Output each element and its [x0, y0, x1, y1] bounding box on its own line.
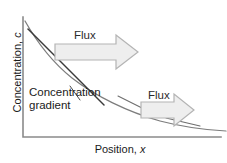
- axes-lines: [23, 17, 221, 137]
- x-axis-label: Position, x: [60, 143, 180, 156]
- figure-canvas: [0, 0, 227, 163]
- y-axis-label-text: Concentration,: [11, 38, 23, 113]
- flux-label-lower: Flux: [148, 89, 170, 102]
- flux-arrow-upper: [55, 35, 138, 69]
- gradient-label-line-1: Concentration: [29, 86, 101, 98]
- x-axis-label-text: Position,: [95, 143, 140, 155]
- concentration-gradient-label: Concentration gradient: [29, 86, 101, 112]
- flux-label-upper: Flux: [74, 29, 96, 42]
- concentration-gradient-figure: Concentration, c Position, x Concentrati…: [0, 0, 227, 163]
- x-axis-label-symbol: x: [140, 143, 146, 155]
- y-axis-label: Concentration, c: [11, 17, 24, 127]
- concentration-curve: [25, 21, 226, 131]
- y-axis-label-symbol: c: [11, 32, 23, 38]
- gradient-label-line-2: gradient: [29, 99, 101, 112]
